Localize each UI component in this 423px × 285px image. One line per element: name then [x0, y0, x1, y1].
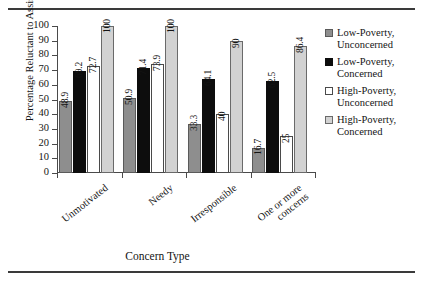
legend-item: High-Poverty,Unconcerned	[325, 85, 421, 108]
bar-value-label: 100	[166, 19, 176, 33]
bar-value-label: 16.7	[253, 139, 263, 155]
bar	[101, 26, 114, 173]
x-axis-title: Concern Type	[0, 250, 315, 262]
y-tick-label: 20	[9, 138, 49, 148]
y-tick-label: 50	[9, 94, 49, 104]
legend-item: High-Poverty,Concerned	[325, 114, 421, 137]
x-tick	[122, 173, 123, 178]
legend-swatch-icon	[325, 116, 333, 124]
bar	[266, 81, 279, 173]
bar	[202, 79, 215, 173]
bar	[87, 66, 100, 173]
bar	[188, 124, 201, 173]
bar	[151, 64, 164, 173]
x-tick	[315, 173, 316, 178]
y-tick-label: 40	[9, 108, 49, 118]
top-rule	[8, 8, 415, 10]
legend-item: Low-Poverty,Concerned	[325, 56, 421, 79]
bar-value-label: 86.4	[295, 37, 305, 53]
bar-value-label: 33.3	[189, 115, 199, 131]
y-tick-label: 100	[9, 20, 49, 30]
y-tick-label: 0	[9, 167, 49, 177]
bar-value-label: 64.1	[203, 70, 213, 86]
bar-value-label: 69.2	[74, 62, 84, 78]
bar	[73, 71, 86, 173]
legend-swatch-icon	[325, 29, 333, 37]
plot-area: 48.969.272.710050.971.473.910033.364.140…	[57, 26, 315, 173]
bar	[216, 114, 229, 173]
legend-label: Low-Poverty,Unconcerned	[337, 27, 394, 50]
bar	[123, 98, 136, 173]
legend-label: Low-Poverty,Concerned	[337, 56, 394, 79]
legend-swatch-icon	[325, 87, 333, 95]
bar-value-label: 90	[231, 38, 241, 47]
legend-swatch-icon	[325, 58, 333, 66]
legend: Low-Poverty,UnconcernedLow-Poverty,Conce…	[325, 27, 421, 143]
y-tick-label: 60	[9, 79, 49, 89]
y-tick-label: 80	[9, 49, 49, 59]
y-tick-label: 90	[9, 35, 49, 45]
legend-item: Low-Poverty,Unconcerned	[325, 27, 421, 50]
figure-container: Percentage Reluctant to Assist 010203040…	[0, 0, 423, 285]
bar-value-label: 40	[217, 112, 227, 121]
y-tick-label: 10	[9, 152, 49, 162]
x-tick	[186, 173, 187, 178]
bar-value-label: 71.4	[138, 59, 148, 75]
bar-value-label: 62.5	[267, 72, 277, 88]
bar	[294, 46, 307, 173]
bar-value-label: 73.9	[152, 55, 162, 71]
bar-value-label: 50.9	[124, 89, 134, 105]
bar-value-label: 48.9	[60, 92, 70, 108]
y-tick-label: 30	[9, 123, 49, 133]
bar-value-label: 25	[281, 134, 291, 143]
bar	[137, 68, 150, 173]
x-tick	[57, 173, 58, 178]
bar	[59, 101, 72, 173]
y-tick-label: 70	[9, 64, 49, 74]
legend-label: High-Poverty,Unconcerned	[337, 85, 396, 108]
legend-label: High-Poverty,Concerned	[337, 114, 396, 137]
bar	[165, 26, 178, 173]
bar	[230, 41, 243, 173]
bar-value-label: 72.7	[88, 57, 98, 73]
x-tick	[251, 173, 252, 178]
bar-value-label: 100	[102, 19, 112, 33]
